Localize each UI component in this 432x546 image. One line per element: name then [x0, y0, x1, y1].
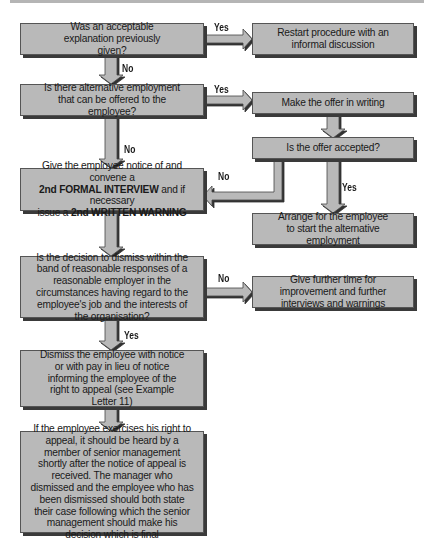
edge-label-no-2: No — [124, 144, 135, 155]
node-text: Give the employee notice of and convene … — [27, 160, 197, 219]
node-text: Arrange for the employee to start the al… — [259, 211, 407, 246]
node-text: Restart procedure with an informal discu… — [259, 27, 407, 51]
edge-label-yes-4: Yes — [124, 330, 139, 341]
node-make-offer: Make the offer in writing — [252, 92, 414, 114]
arrow-offer-down — [321, 114, 345, 138]
node-reasonable-responses: Is the decision to dismiss within the ba… — [20, 256, 204, 318]
node-text: Is the decision to dismiss within the ba… — [27, 252, 197, 323]
edge-label-yes-1: Yes — [214, 22, 229, 33]
node-text: Is the offer accepted? — [286, 142, 379, 154]
node-restart-procedure: Restart procedure with an informal discu… — [252, 23, 414, 55]
node-text: Make the offer in writing — [282, 97, 385, 109]
node-offer-accepted: Is the offer accepted? — [252, 137, 414, 159]
edge-label-yes-2: Yes — [214, 84, 229, 95]
node-dismiss-employee: Dismiss the employee with notice or with… — [20, 350, 204, 407]
arrow-no-1 — [99, 55, 123, 84]
arrow-yes-4 — [99, 318, 123, 350]
node-text: If the employee exercises his right to a… — [27, 423, 197, 541]
node-text: Was an acceptable explanation previously… — [27, 21, 197, 56]
node-arrange-start: Arrange for the employee to start the al… — [252, 213, 414, 245]
edge-label-no-3: No — [218, 171, 229, 182]
node-text: Give further time for improvement and fu… — [259, 274, 407, 309]
edge-label-no-1: No — [122, 63, 133, 74]
node-appeal: If the employee exercises his right to a… — [20, 431, 204, 533]
node-further-time: Give further time for improvement and fu… — [252, 276, 414, 308]
node-alternative-employment: Is there alternative employment that can… — [20, 84, 204, 116]
node-text: Is there alternative employment that can… — [27, 82, 197, 117]
edge-label-no-4: No — [218, 273, 229, 284]
arrow-no-3 — [203, 159, 282, 206]
node-second-formal-interview: Give the employee notice of and convene … — [20, 168, 204, 211]
node-text: Dismiss the employee with notice or with… — [27, 349, 197, 408]
arrow-no-4 — [203, 282, 252, 302]
node-acceptable-explanation: Was an acceptable explanation previously… — [20, 23, 204, 55]
edge-label-yes-3: Yes — [342, 182, 357, 193]
